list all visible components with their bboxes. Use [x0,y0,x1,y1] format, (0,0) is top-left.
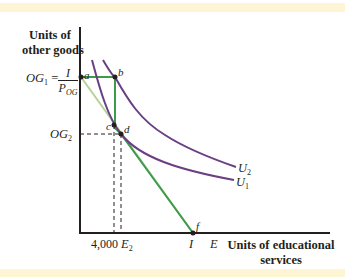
x-tick-i: I [189,238,193,251]
point-b-label: b [118,67,124,78]
fraction-denominator: POG [58,82,78,97]
x-axis-title: Units of educational services [222,238,340,268]
point-a-marker [79,75,84,80]
y-axis-title-line1: Units of [29,28,71,42]
point-f-marker [191,231,196,236]
x-tick-e2: E2 [121,238,133,253]
u1-label: U1 [236,176,249,191]
y-axis-title: Units of other goods [22,28,78,58]
x-axis-title-line2: services [260,253,302,267]
point-c-label: c [106,121,111,132]
x-axis-title-line1: Units of educational [228,238,335,252]
point-f-label: f [196,221,199,232]
og2-label: OG2 [50,128,72,143]
point-b-marker [113,75,118,80]
x-tick-e: E [210,238,218,251]
point-a-label: a [84,70,90,81]
og1-label: OG1 = [26,72,58,87]
y-axis-title-line2: other goods [22,43,84,57]
income-over-price-fraction: I POG [58,67,78,97]
fraction-numerator: I [58,67,78,79]
x-tick-4000: 4,000 [91,238,118,250]
point-c-marker [112,123,117,128]
point-d-marker [119,132,124,137]
point-d-label: d [124,124,130,135]
